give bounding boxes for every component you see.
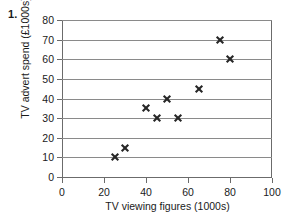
x-axis-tick-label: 40 <box>140 186 152 198</box>
y-axis-tick <box>57 157 62 158</box>
y-axis-tick <box>57 79 62 80</box>
x-axis-tick <box>272 178 273 183</box>
data-point-marker <box>152 114 161 123</box>
data-point-marker <box>121 143 130 152</box>
question-number: 1. <box>8 8 18 20</box>
data-point-marker <box>194 84 203 93</box>
y-axis-tick-label: 40 <box>42 93 54 105</box>
y-axis-tick-label: 10 <box>42 151 54 163</box>
y-axis-tick-label: 30 <box>42 112 54 124</box>
data-point-marker <box>173 114 182 123</box>
y-axis-tick <box>57 40 62 41</box>
y-axis-title: TV advert spend (£1000s) <box>19 0 31 133</box>
x-axis-tick-label: 100 <box>263 186 281 198</box>
x-axis-tick-label: 80 <box>224 186 236 198</box>
data-point-marker <box>226 55 235 64</box>
data-point-marker <box>142 104 151 113</box>
gridline-y <box>62 157 272 158</box>
y-axis-tick <box>57 138 62 139</box>
x-axis-tick <box>146 178 147 183</box>
data-point-marker <box>163 94 172 103</box>
gridline-y <box>62 118 272 119</box>
y-axis-tick-label: 50 <box>42 73 54 85</box>
data-point-marker <box>110 153 119 162</box>
x-axis-line <box>62 177 272 178</box>
gridline-y <box>62 59 272 60</box>
gridline-y <box>62 20 272 21</box>
y-axis-tick-label: 70 <box>42 34 54 46</box>
scatter-plot-figure: 1. TV advert spend (£1000s) TV viewing f… <box>0 0 295 220</box>
x-axis-tick-label: 0 <box>59 186 65 198</box>
y-axis-tick <box>57 59 62 60</box>
y-axis-tick-label: 60 <box>42 53 54 65</box>
gridline-y <box>62 40 272 41</box>
x-axis-tick <box>104 178 105 183</box>
plot-area: 01020304050607080020406080100 <box>62 20 272 178</box>
y-axis-tick <box>57 118 62 119</box>
x-axis-tick-label: 60 <box>182 186 194 198</box>
x-axis-title: TV viewing figures (1000s) <box>62 200 273 212</box>
gridline-y <box>62 138 272 139</box>
x-axis-tick <box>62 178 63 183</box>
y-axis-tick <box>57 99 62 100</box>
y-axis-tick-label: 0 <box>48 171 54 183</box>
data-point-marker <box>215 35 224 44</box>
x-axis-tick <box>230 178 231 183</box>
x-axis-tick <box>188 178 189 183</box>
x-axis-tick-label: 20 <box>98 186 110 198</box>
y-axis-tick <box>57 20 62 21</box>
gridline-y <box>62 79 272 80</box>
y-axis-tick-label: 80 <box>42 14 54 26</box>
y-axis-tick-label: 20 <box>42 132 54 144</box>
